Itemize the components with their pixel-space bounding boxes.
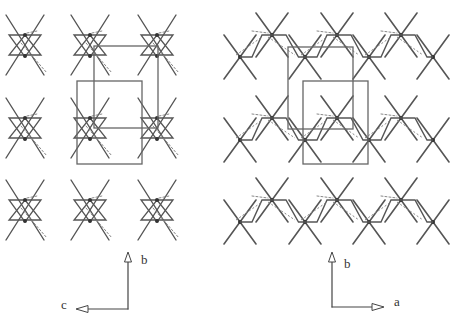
dashed-bond: [252, 196, 268, 198]
dashed-bond: [21, 43, 47, 73]
dashed-bond: [21, 208, 47, 238]
dashed-bond: [153, 126, 179, 156]
atom-dot: [155, 219, 159, 223]
dashed-bond: [153, 208, 179, 238]
dashed-bond: [21, 126, 47, 156]
atom-dot: [155, 198, 159, 202]
dashed-bond: [381, 114, 397, 116]
unit-cell-box: [288, 47, 353, 129]
atom-dot: [88, 137, 92, 141]
dashed-bond: [86, 126, 112, 156]
right-axis-a-label: a: [394, 294, 400, 310]
atom-dot: [88, 33, 92, 37]
right-axis-b-arrow-head: [329, 252, 336, 262]
dashed-bond: [381, 31, 397, 33]
atom-dot: [23, 219, 27, 223]
left-axis-c-label: c: [61, 297, 67, 313]
right-axis-a-arrow-head: [372, 304, 384, 311]
left-axis-b-label: b: [141, 252, 148, 268]
atom-dot: [88, 116, 92, 120]
dashed-bond: [381, 196, 397, 198]
atom-dot: [155, 33, 159, 37]
dashed-bond: [317, 114, 333, 116]
atom-dot: [88, 198, 92, 202]
right-axis-b-label: b: [344, 256, 351, 272]
atom-dot: [88, 219, 92, 223]
dashed-bond: [317, 31, 333, 33]
dashed-bond: [153, 43, 179, 73]
left-axis-b-arrow-head: [125, 252, 132, 262]
dashed-bond: [252, 31, 268, 33]
atom-dot: [23, 33, 27, 37]
atom-dot: [23, 198, 27, 202]
dashed-bond: [252, 114, 268, 116]
atom-dot: [23, 54, 27, 58]
atom-dot: [23, 116, 27, 120]
dashed-bond: [86, 43, 112, 73]
atom-dot: [88, 54, 92, 58]
atom-dot: [23, 137, 27, 141]
dashed-bond: [317, 196, 333, 198]
dashed-bond: [86, 208, 112, 238]
crystal-packing-diagram: [0, 0, 464, 317]
atom-dot: [155, 137, 159, 141]
left-axis-c-arrow-head: [76, 306, 88, 313]
